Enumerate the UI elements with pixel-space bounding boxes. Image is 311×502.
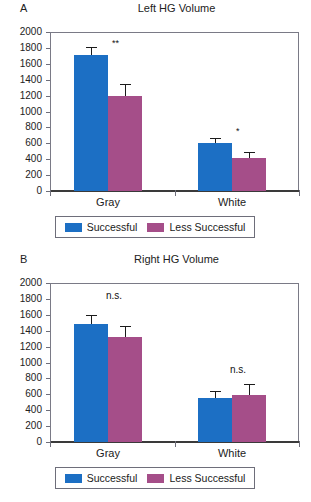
y-tick-label: 2000 xyxy=(20,27,42,37)
legend-item-less-successful: Less Successful xyxy=(147,472,245,484)
y-tick-label: 1000 xyxy=(20,358,42,368)
panel-a-x-labels: GrayWhite xyxy=(50,196,300,214)
legend-item-successful: Successful xyxy=(65,221,138,233)
x-tick-mark xyxy=(299,441,300,447)
bar-white-less-successful xyxy=(232,158,266,191)
error-bar xyxy=(91,48,92,55)
y-tick-label: 1400 xyxy=(20,75,42,85)
error-bar-cap xyxy=(210,391,221,392)
error-bar xyxy=(91,316,92,325)
x-axis-label-gray: Gray xyxy=(68,447,148,459)
panel-b-legend: Successful Less Successful xyxy=(55,467,255,489)
legend-label-less-successful: Less Successful xyxy=(169,472,245,484)
x-tick-mark xyxy=(299,190,300,196)
error-bar xyxy=(249,153,250,158)
x-axis-label-white: White xyxy=(192,447,272,459)
x-axis-label-gray: Gray xyxy=(68,196,148,208)
y-tick-label: 2000 xyxy=(20,278,42,288)
error-bar xyxy=(125,327,126,337)
x-tick-mark xyxy=(175,190,176,196)
y-tick-label: 800 xyxy=(25,373,42,383)
bar-gray-successful xyxy=(74,324,108,442)
y-tick-label: 1400 xyxy=(20,326,42,336)
bar-white-successful xyxy=(198,398,232,442)
legend-swatch-less-successful-icon xyxy=(147,474,164,483)
bar-white-less-successful xyxy=(232,395,266,442)
significance-annotation: n.s. xyxy=(230,365,246,374)
y-tick-label: 1200 xyxy=(20,342,42,352)
legend-label-less-successful: Less Successful xyxy=(169,221,245,233)
legend-swatch-successful-icon xyxy=(65,223,82,232)
y-tick-label: 1200 xyxy=(20,91,42,101)
error-bar xyxy=(249,385,250,395)
y-tick-label: 400 xyxy=(25,405,42,415)
bar-group-white xyxy=(198,32,266,191)
panel-b-y-axis: 2000180016001400120010008006004002000 xyxy=(0,251,50,451)
y-tick-label: 1000 xyxy=(20,107,42,117)
x-tick-mark xyxy=(175,441,176,447)
y-tick-label: 0 xyxy=(36,437,42,447)
panel-b: B Right HG Volume 2000180016001400120010… xyxy=(0,251,311,502)
panel-b-bars: n.s.n.s. xyxy=(50,283,299,442)
error-bar-cap xyxy=(244,152,255,153)
legend-swatch-successful-icon xyxy=(65,474,82,483)
significance-annotation: n.s. xyxy=(106,291,122,300)
y-tick-label: 400 xyxy=(25,154,42,164)
bar-white-successful xyxy=(198,143,232,191)
panel-a-legend: Successful Less Successful xyxy=(55,216,255,238)
legend-swatch-less-successful-icon xyxy=(147,223,164,232)
y-tick-label: 1800 xyxy=(20,294,42,304)
bar-group-gray xyxy=(74,32,142,191)
bar-gray-successful xyxy=(74,55,108,191)
y-tick-label: 200 xyxy=(25,421,42,431)
y-tick-label: 1600 xyxy=(20,310,42,320)
legend-label-successful: Successful xyxy=(87,472,138,484)
error-bar xyxy=(125,85,126,96)
error-bar-cap xyxy=(120,84,131,85)
error-bar-cap xyxy=(244,384,255,385)
y-tick-label: 1800 xyxy=(20,43,42,53)
panel-a: A Left HG Volume 20001800160014001200100… xyxy=(0,0,311,251)
y-tick-label: 200 xyxy=(25,170,42,180)
error-bar-cap xyxy=(86,315,97,316)
x-tick-mark xyxy=(50,441,51,447)
legend-item-successful: Successful xyxy=(65,472,138,484)
bar-gray-less-successful xyxy=(108,337,142,442)
panel-b-x-labels: GrayWhite xyxy=(50,447,300,465)
bar-group-gray xyxy=(74,283,142,442)
significance-annotation: ** xyxy=(112,39,119,48)
legend-label-successful: Successful xyxy=(87,221,138,233)
x-axis-label-white: White xyxy=(192,196,272,208)
error-bar-cap xyxy=(120,326,131,327)
y-tick-label: 600 xyxy=(25,138,42,148)
y-tick-label: 0 xyxy=(36,186,42,196)
error-bar-cap xyxy=(210,138,221,139)
bar-gray-less-successful xyxy=(108,96,142,191)
panel-a-y-axis: 2000180016001400120010008006004002000 xyxy=(0,0,50,200)
error-bar xyxy=(215,139,216,143)
y-tick-label: 800 xyxy=(25,122,42,132)
error-bar xyxy=(215,392,216,398)
y-tick-label: 1600 xyxy=(20,59,42,69)
bar-group-white xyxy=(198,283,266,442)
significance-annotation: * xyxy=(236,127,240,136)
x-tick-mark xyxy=(50,190,51,196)
error-bar-cap xyxy=(86,47,97,48)
legend-item-less-successful: Less Successful xyxy=(147,221,245,233)
y-tick-label: 600 xyxy=(25,389,42,399)
panel-a-bars: *** xyxy=(50,32,299,191)
